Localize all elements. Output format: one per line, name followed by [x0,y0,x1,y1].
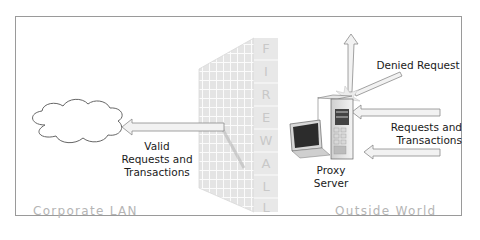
corporate-lan-cloud-icon [33,99,123,142]
valid-line-2: Requests and [112,153,202,166]
requests-arrow-top [352,105,440,119]
proxy-line-1: Proxy [306,164,356,177]
requests-line-1: Requests and [372,121,462,134]
proxy-line-2: Server [306,177,356,190]
firewall-letter: W [256,133,276,148]
zone-label-outside-world: Outside World [335,204,436,218]
firewall-letter: F [256,41,276,56]
firewall-letter: R [256,87,276,102]
requests-arrow-bottom [364,145,440,159]
firewall-letter: A [256,156,276,171]
valid-line-3: Transactions [112,166,202,179]
firewall-letter: I [256,64,276,79]
proxy-server-icon [290,95,353,159]
denied-request-label: Denied Request [368,59,468,72]
firewall-letter: E [256,110,276,125]
proxy-server-label: Proxy Server [306,164,356,190]
requests-line-2: Transactions [372,134,462,147]
valid-requests-label: Valid Requests and Transactions [112,140,202,179]
requests-label: Requests and Transactions [372,121,462,147]
valid-line-1: Valid [112,140,202,153]
firewall-letter: L [256,179,276,194]
zone-label-corporate-lan: Corporate LAN [33,204,138,218]
firewall-letter: L [256,200,276,215]
